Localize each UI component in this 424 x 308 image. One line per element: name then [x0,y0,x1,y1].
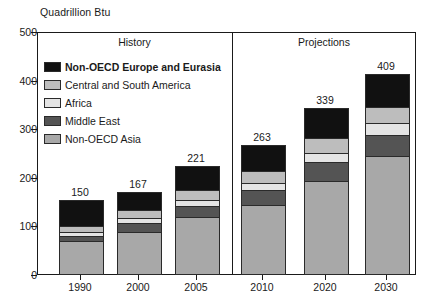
x-tick-mark [196,275,197,280]
legend-swatch [44,98,61,108]
bar-segment [118,224,161,232]
bars-layer: 1501990167200022120052632010339202040920… [0,0,424,308]
bar-total-label: 409 [377,60,395,72]
bar-segment [118,211,161,219]
bar-stack [241,145,286,275]
legend-item: Africa [44,94,221,112]
bar-stack [365,74,410,275]
bar-group [59,200,102,275]
x-tick-label: 2005 [166,281,226,293]
legend-label: Africa [65,97,92,109]
bar-group [175,166,218,275]
bar-segment [366,124,409,136]
legend-item: Central and South America [44,76,221,94]
x-tick-label: 1990 [50,281,110,293]
x-tick-label: 2030 [356,281,416,293]
bar-segment [242,184,285,192]
legend-label: Non-OECD Europe and Eurasia [65,61,221,73]
legend-swatch [44,62,61,72]
bar-total-label: 167 [129,178,147,190]
bar-segment [305,154,348,164]
legend-item: Non-OECD Asia [44,130,221,148]
bar-group [365,74,408,275]
bar-segment [366,108,409,124]
bar-group [304,108,347,275]
bar-segment [60,201,103,227]
legend-label: Middle East [65,115,120,127]
bar-segment [366,136,409,158]
x-tick-mark [138,275,139,280]
legend-item: Middle East [44,112,221,130]
bar-segment [242,172,285,184]
bar-segment [176,191,219,201]
x-tick-mark [80,275,81,280]
bar-segment [118,233,161,274]
bar-stack [117,192,162,275]
x-tick-label: 2000 [108,281,168,293]
bar-segment [176,207,219,218]
legend-swatch [44,134,61,144]
x-tick-label: 2020 [295,281,355,293]
bar-segment [305,182,348,274]
legend-label: Non-OECD Asia [65,133,141,145]
bar-stack [175,166,220,275]
bar-segment [305,163,348,181]
bar-total-label: 150 [71,186,89,198]
bar-segment [176,218,219,274]
x-tick-mark [262,275,263,280]
x-tick-mark [386,275,387,280]
bar-segment [176,167,219,191]
bar-segment [242,206,285,274]
bar-segment [60,242,103,274]
bar-total-label: 221 [187,152,205,164]
bar-segment [366,157,409,274]
legend-item: Non-OECD Europe and Eurasia [44,58,221,76]
bar-group [241,145,284,275]
bar-segment [305,139,348,154]
bar-segment [242,146,285,172]
legend-label: Central and South America [65,79,191,91]
bar-group [117,192,160,275]
stacked-bar-chart: Quadrillion Btu History Projections 0100… [0,0,424,308]
legend-swatch [44,116,61,126]
x-tick-label: 2010 [232,281,292,293]
bar-total-label: 339 [316,94,334,106]
bar-segment [118,193,161,211]
bar-stack [59,200,104,275]
bar-segment [366,75,409,108]
legend-swatch [44,80,61,90]
bar-stack [304,108,349,275]
x-tick-mark [325,275,326,280]
chart-legend: Non-OECD Europe and EurasiaCentral and S… [44,58,221,148]
bar-segment [242,191,285,206]
bar-total-label: 263 [253,131,271,143]
bar-segment [305,109,348,139]
